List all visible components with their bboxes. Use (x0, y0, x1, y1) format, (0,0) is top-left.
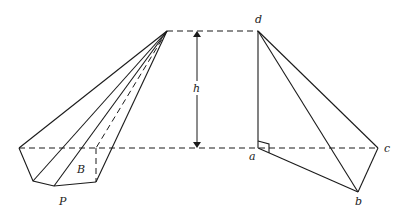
right-tetrahedron: d a b c (249, 13, 390, 208)
lateral-edge-1 (19, 31, 167, 148)
base-label: B (76, 163, 85, 176)
vertex-a-label: a (249, 150, 256, 163)
edge-ab (258, 148, 358, 192)
height-arrow: h (193, 34, 200, 145)
pyramid-diagram: h B P d a b c (0, 0, 406, 216)
lateral-edge-2 (33, 31, 167, 181)
solid-label: P (58, 195, 67, 208)
right-angle-marker (258, 141, 269, 153)
vertex-d-label: d (255, 13, 262, 26)
edge-db (258, 31, 358, 192)
edge-bc (358, 148, 378, 192)
lateral-edge-3 (54, 31, 167, 186)
edge-dc (258, 31, 378, 148)
height-label: h (193, 82, 200, 95)
vertex-c-label: c (384, 142, 390, 155)
lateral-edge-hidden (96, 31, 167, 148)
diagram-canvas: h B P d a b c (0, 0, 406, 216)
lateral-edge-4 (96, 31, 167, 182)
vertex-b-label: b (355, 195, 362, 208)
left-pyramid: B P (19, 31, 167, 208)
